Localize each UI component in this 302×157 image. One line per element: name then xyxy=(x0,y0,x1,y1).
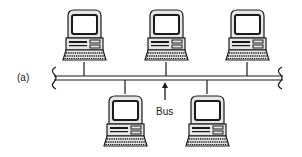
bus-network-diagram: (a) Bus xyxy=(0,0,302,157)
bus-label: Bus xyxy=(156,106,173,117)
computer-icon xyxy=(63,10,106,60)
computer-icon xyxy=(104,96,147,146)
computer-icon xyxy=(145,10,188,60)
computer-icon xyxy=(226,10,269,60)
bus-cable xyxy=(52,67,283,89)
computer-icon xyxy=(186,96,229,146)
panel-label: (a) xyxy=(17,72,29,83)
bus-arrow-icon xyxy=(162,82,168,100)
